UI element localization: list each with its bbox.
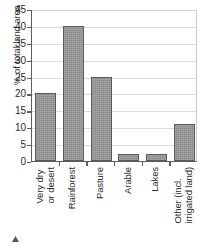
x-tick-mark	[86, 162, 87, 166]
bar-slot	[115, 10, 143, 161]
bar-slot	[143, 10, 171, 161]
x-label-slot: Arable	[114, 167, 142, 246]
x-axis-category-labels: Very dryor desertRainforestPastureArable…	[31, 167, 197, 246]
y-axis-tick-labels: 051015202530354045	[6, 10, 26, 162]
bar-slot	[170, 10, 198, 161]
x-tick-label: Arable	[123, 167, 134, 194]
x-label-slot: Other (incl.irrigated land)	[169, 167, 197, 246]
x-tick-label-line: irrigated land)	[183, 167, 194, 224]
x-tick-label-line: Arable	[122, 167, 133, 194]
x-label-slot: Lakes	[142, 167, 170, 246]
page-marker-icon	[12, 236, 19, 242]
x-tick-mark	[169, 162, 170, 166]
x-tick-mark	[59, 162, 60, 166]
bar	[174, 124, 195, 161]
y-tick-label: 45	[6, 5, 26, 15]
y-tick-label: 15	[6, 106, 26, 116]
x-tick-label-line: Lakes	[149, 167, 160, 192]
plot-area	[31, 10, 197, 162]
x-tick-label: Other (incl.irrigated land)	[173, 167, 194, 224]
bar	[118, 154, 139, 161]
y-tick-label: 5	[6, 140, 26, 150]
x-label-slot: Rainforest	[59, 167, 87, 246]
bar-slot	[87, 10, 115, 161]
bar-series	[32, 10, 196, 161]
y-tick-label: 20	[6, 89, 26, 99]
y-tick-label: 10	[6, 123, 26, 133]
y-tick-label: 25	[6, 73, 26, 83]
y-tick-label: 0	[6, 157, 26, 167]
x-tick-mark	[114, 162, 115, 166]
x-tick-label: Pasture	[95, 167, 106, 199]
x-tick-label: Lakes	[150, 167, 161, 192]
bar	[63, 26, 84, 161]
x-tick-label: Rainforest	[67, 167, 78, 209]
y-tick-label: 40	[6, 22, 26, 32]
bar-slot	[60, 10, 88, 161]
x-tick-mark	[142, 162, 143, 166]
x-tick-label-line: or desert	[45, 167, 56, 204]
x-label-slot: Pasture	[86, 167, 114, 246]
x-tick-label-line: Other (incl.	[172, 178, 183, 223]
y-tick-label: 35	[6, 39, 26, 49]
x-tick-label-line: Pasture	[94, 167, 105, 199]
bar-chart: % of total land area 051015202530354045 …	[0, 0, 201, 246]
x-tick-label-line: Very dry	[33, 170, 44, 204]
bar	[91, 77, 112, 161]
x-tick-label-line: Rainforest	[66, 167, 77, 209]
x-tick-label: Very dryor desert	[34, 167, 55, 204]
bar	[146, 154, 167, 161]
x-label-slot: Very dryor desert	[31, 167, 59, 246]
bar	[35, 93, 56, 161]
bar-slot	[32, 10, 60, 161]
y-tick-label: 30	[6, 56, 26, 66]
